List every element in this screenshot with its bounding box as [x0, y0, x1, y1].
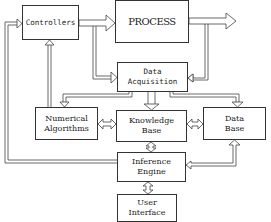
data-acquisition-label-1: Data	[143, 67, 161, 77]
process-box: PROCESS	[115, 0, 189, 43]
numerical-algorithms-label-1: Numerical	[45, 114, 88, 124]
data-acquisition-box: Data Acquisition	[117, 62, 188, 92]
process-label: PROCESS	[128, 17, 175, 27]
data-acquisition-label-2: Acquisition	[128, 77, 178, 87]
inference-engine-label-2: Engine	[137, 167, 166, 177]
knowledge-base-label-2: Base	[142, 126, 162, 136]
numerical-algorithms-box: Numerical Algorithms	[35, 107, 98, 140]
knowledge-base-label-1: Knowledge	[129, 116, 174, 126]
knowledge-base-box: Knowledge Base	[116, 110, 187, 142]
data-base-label-1: Data	[225, 114, 244, 124]
data-base-label-2: Base	[225, 124, 245, 134]
user-interface-box: User Interface	[117, 194, 177, 222]
data-base-box: Data Base	[203, 107, 266, 140]
controllers-label: Controllers	[26, 18, 76, 28]
inference-engine-label-1: Inference	[132, 157, 171, 167]
user-interface-label-1: User	[137, 198, 156, 208]
user-interface-label-2: Interface	[128, 208, 165, 218]
numerical-algorithms-label-2: Algorithms	[44, 124, 89, 134]
controllers-box: Controllers	[22, 5, 79, 40]
inference-engine-box: Inference Engine	[117, 152, 186, 182]
